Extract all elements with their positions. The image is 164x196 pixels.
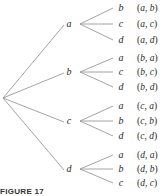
root-edge-b [3,73,64,98]
pair-a-b: (a, b) [137,3,158,13]
figure-caption: FIGURE 17 [0,187,44,196]
pair-c-d: (c, d) [137,131,157,141]
node-a: a [67,19,72,29]
leaf-d-a: a [119,150,124,160]
leaf-a-b: b [119,3,124,13]
pair-a-c: (a, c) [137,19,157,29]
leaf-b-c: c [119,67,123,77]
pair-d-b: (d, b) [137,164,158,174]
leaf-c-b: b [119,116,124,126]
edge-b-d [80,72,113,87]
pair-a-d: (a, d) [137,35,158,45]
pair-d-a: (d, a) [137,150,158,160]
edge-c-d [80,121,113,136]
pair-c-b: (c, b) [137,116,157,126]
edge-a-d [80,24,113,40]
root-edge-c [3,98,64,122]
leaf-a-d: d [119,35,124,45]
leaf-b-a: a [119,53,124,63]
edge-d-a [80,155,113,169]
root-edge-d [3,98,64,170]
edge-b-a [80,58,113,72]
node-b: b [67,67,72,77]
edge-c-a [80,106,113,121]
edge-d-c [80,169,113,183]
pair-b-c: (b, c) [137,67,157,77]
leaf-c-a: a [119,101,124,111]
pair-b-d: (b, d) [137,82,158,92]
leaf-d-b: b [119,164,124,174]
pair-d-c: (d, c) [137,178,157,188]
leaf-b-d: d [119,82,124,92]
leaf-c-d: d [119,131,124,141]
leaf-a-c: c [119,19,123,29]
edge-a-b [80,8,113,24]
pair-b-a: (b, a) [137,53,158,63]
pair-c-a: (c, a) [137,101,157,111]
root-edge-a [3,25,64,98]
node-c: c [67,116,71,126]
node-d: d [67,164,72,174]
leaf-d-c: c [119,178,123,188]
